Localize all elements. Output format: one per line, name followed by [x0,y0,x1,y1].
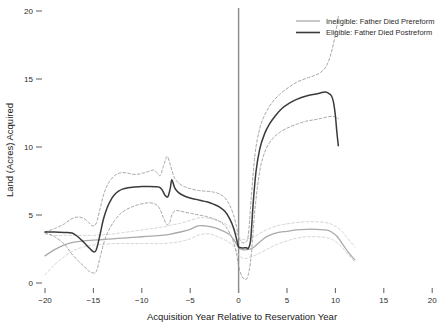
confidence-band-line [45,218,355,247]
series-line [45,92,338,252]
x-axis-title: Acquisition Year Relative to Reservation… [147,311,337,322]
x-axis-ticks: −20−15−10−505101520 [38,288,437,305]
y-tick-label: 15 [24,75,33,84]
x-tick-label: 15 [379,296,388,305]
legend-label-0[interactable]: Ineligible: Father Died Prereform [326,17,434,26]
legend-label-1[interactable]: Eligible: Father Died Postreform [326,28,432,37]
x-tick-label: −15 [87,296,101,305]
x-tick-label: −10 [135,296,149,305]
y-tick-label: 20 [24,7,33,16]
line-chart-canvas: 05101520 −20−15−10−505101520 Ineligible:… [0,0,447,325]
y-tick-label: 5 [29,211,34,220]
x-tick-label: −20 [38,296,52,305]
x-tick-label: 0 [236,296,241,305]
series-line [45,226,355,260]
y-tick-label: 10 [24,143,33,152]
y-axis-ticks: 05101520 [24,7,42,288]
x-tick-label: 5 [285,296,290,305]
x-tick-label: 20 [428,296,437,305]
y-axis-title: Land (Acres) Acquired [4,103,15,197]
chart-figure: 05101520 −20−15−10−505101520 Ineligible:… [0,0,447,325]
confidence-band-line [45,16,338,243]
x-tick-label: 10 [331,296,340,305]
x-tick-label: −5 [186,296,196,305]
legend-group[interactable]: Ineligible: Father Died PrereformEligibl… [296,17,434,38]
y-tick-label: 0 [29,279,34,288]
